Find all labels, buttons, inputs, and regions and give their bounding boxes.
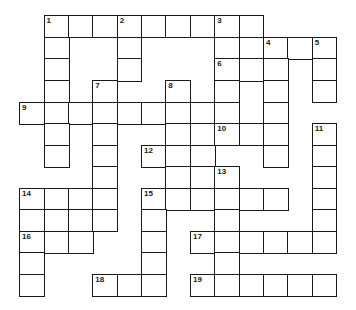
crossword-cell[interactable] — [92, 188, 118, 211]
crossword-cell[interactable] — [165, 145, 191, 168]
crossword-cell[interactable] — [239, 58, 265, 82]
crossword-cell[interactable] — [165, 102, 191, 125]
crossword-cell[interactable] — [214, 252, 240, 275]
crossword-cell[interactable] — [312, 188, 338, 211]
crossword-cell[interactable] — [92, 145, 118, 168]
crossword-cell[interactable] — [165, 123, 191, 146]
crossword-cell[interactable] — [44, 188, 70, 211]
crossword-cell[interactable] — [190, 123, 216, 146]
crossword-cell[interactable]: 19 — [190, 274, 216, 297]
crossword-cell[interactable]: 5 — [312, 37, 338, 60]
crossword-cell[interactable] — [239, 123, 265, 146]
crossword-cell[interactable] — [263, 123, 289, 146]
crossword-cell[interactable]: 8 — [165, 80, 191, 103]
crossword-cell[interactable] — [19, 274, 45, 297]
crossword-cell[interactable]: 18 — [92, 274, 118, 297]
crossword-cell[interactable] — [239, 274, 265, 297]
crossword-cell[interactable]: 6 — [214, 58, 240, 82]
crossword-cell[interactable] — [165, 166, 191, 189]
crossword-cell[interactable]: 2 — [117, 15, 143, 38]
crossword-cell[interactable]: 3 — [214, 15, 240, 38]
crossword-cell[interactable] — [312, 166, 338, 189]
crossword-cell[interactable]: 15 — [141, 188, 167, 211]
crossword-cell[interactable] — [44, 123, 70, 146]
crossword-cell[interactable] — [19, 252, 45, 275]
crossword-cell[interactable] — [44, 145, 70, 168]
crossword-cell[interactable] — [312, 58, 338, 82]
crossword-cell[interactable] — [312, 145, 338, 168]
crossword-cell[interactable] — [68, 209, 94, 232]
crossword-cell[interactable] — [239, 37, 265, 60]
crossword-cell[interactable] — [263, 80, 289, 103]
crossword-cell[interactable]: 13 — [214, 166, 240, 189]
crossword-cell[interactable] — [214, 274, 240, 297]
crossword-cell[interactable]: 4 — [263, 37, 289, 60]
crossword-cell[interactable] — [214, 188, 240, 211]
crossword-cell[interactable] — [239, 188, 265, 211]
crossword-cell[interactable] — [141, 209, 167, 232]
crossword-cell[interactable]: 1 — [44, 15, 70, 38]
crossword-cell[interactable]: 14 — [19, 188, 45, 211]
crossword-cell[interactable] — [287, 231, 313, 254]
crossword-cell[interactable] — [214, 80, 240, 103]
clue-number: 5 — [315, 39, 319, 47]
crossword-cell[interactable] — [312, 209, 338, 232]
crossword-cell[interactable] — [190, 145, 216, 168]
crossword-cell[interactable]: 7 — [92, 80, 118, 103]
crossword-cell[interactable] — [239, 231, 265, 254]
crossword-cell[interactable]: 9 — [19, 102, 45, 125]
crossword-cell[interactable] — [214, 209, 240, 232]
crossword-cell[interactable] — [165, 188, 191, 211]
crossword-cell[interactable] — [68, 231, 94, 254]
crossword-cell[interactable] — [190, 15, 216, 38]
crossword-cell[interactable] — [141, 231, 167, 254]
crossword-cell[interactable] — [263, 102, 289, 125]
crossword-cell[interactable] — [92, 102, 118, 125]
crossword-cell[interactable]: 17 — [190, 231, 216, 254]
crossword-cell[interactable] — [287, 37, 313, 60]
crossword-cell[interactable]: 10 — [214, 123, 240, 146]
crossword-cell[interactable] — [117, 102, 143, 125]
crossword-cell[interactable] — [44, 209, 70, 232]
crossword-cell[interactable]: 16 — [19, 231, 45, 254]
crossword-cell[interactable]: 11 — [312, 123, 338, 146]
crossword-cell[interactable] — [312, 80, 338, 103]
crossword-cell[interactable] — [141, 252, 167, 275]
crossword-cell[interactable] — [141, 15, 167, 38]
crossword-cell[interactable] — [287, 274, 313, 297]
crossword-cell[interactable] — [141, 102, 167, 125]
crossword-cell[interactable] — [190, 188, 216, 211]
crossword-cell[interactable] — [214, 102, 240, 125]
crossword-cell[interactable] — [68, 102, 94, 125]
crossword-cell[interactable]: 12 — [141, 145, 167, 168]
crossword-cell[interactable] — [92, 15, 118, 38]
crossword-cell[interactable] — [141, 274, 167, 297]
crossword-cell[interactable] — [92, 209, 118, 232]
crossword-cell[interactable] — [19, 209, 45, 232]
crossword-cell[interactable] — [44, 80, 70, 103]
crossword-cell[interactable] — [263, 231, 289, 254]
crossword-cell[interactable] — [92, 123, 118, 146]
crossword-cell[interactable] — [92, 166, 118, 189]
crossword-cell[interactable] — [44, 37, 70, 60]
crossword-cell[interactable] — [44, 102, 70, 125]
crossword-cell[interactable] — [190, 166, 216, 189]
crossword-cell[interactable] — [214, 37, 240, 60]
crossword-cell[interactable] — [214, 231, 240, 254]
crossword-cell[interactable] — [312, 231, 338, 254]
crossword-cell[interactable] — [117, 37, 143, 60]
crossword-cell[interactable] — [117, 58, 143, 82]
crossword-cell[interactable] — [44, 231, 70, 254]
crossword-cell[interactable] — [68, 15, 94, 38]
crossword-cell[interactable] — [117, 274, 143, 297]
crossword-cell[interactable] — [190, 102, 216, 125]
crossword-cell[interactable] — [312, 274, 338, 297]
crossword-cell[interactable] — [263, 145, 289, 168]
crossword-cell[interactable] — [263, 58, 289, 82]
crossword-cell[interactable] — [239, 15, 265, 38]
crossword-cell[interactable] — [263, 274, 289, 297]
crossword-cell[interactable] — [263, 188, 289, 211]
crossword-cell[interactable] — [44, 58, 70, 82]
crossword-cell[interactable] — [68, 188, 94, 211]
crossword-cell[interactable] — [165, 15, 191, 38]
